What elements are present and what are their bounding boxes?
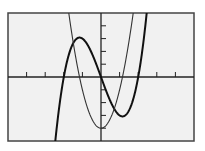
graph-window: [0, 0, 205, 151]
